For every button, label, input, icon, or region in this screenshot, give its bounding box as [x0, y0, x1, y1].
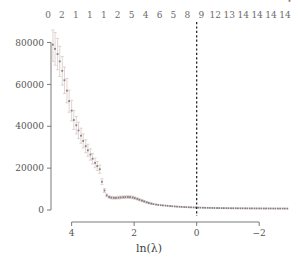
- data-point: [122, 196, 124, 198]
- top-axis-tick-label: 2: [115, 10, 121, 20]
- top-axis-tick-label: 14: [279, 10, 291, 20]
- data-point: [57, 53, 59, 55]
- data-point: [183, 206, 185, 208]
- data-point: [120, 197, 122, 199]
- top-axis-tick-label: 14: [265, 10, 277, 20]
- data-point: [78, 130, 80, 132]
- data-point: [197, 207, 199, 209]
- y-axis-tick-label: 80000: [15, 38, 44, 48]
- data-point: [104, 190, 106, 192]
- data-point: [85, 145, 87, 147]
- data-point: [289, 0, 291, 2]
- data-point: [124, 196, 126, 198]
- data-point: [71, 110, 73, 112]
- x-axis-tick-label: −2: [253, 228, 266, 238]
- data-point: [54, 48, 56, 50]
- data-point: [94, 162, 96, 164]
- x-axis-tick-label: 2: [131, 228, 137, 238]
- data-point: [204, 207, 206, 209]
- data-point: [99, 168, 101, 170]
- data-point: [235, 207, 237, 209]
- top-axis-tick-label: 12: [210, 10, 221, 20]
- data-point: [260, 208, 262, 210]
- data-point: [96, 165, 98, 167]
- data-point: [167, 205, 169, 207]
- data-point: [87, 149, 89, 151]
- data-point: [185, 206, 187, 208]
- data-point: [165, 205, 167, 207]
- data-point: [115, 197, 117, 199]
- data-point: [157, 204, 159, 206]
- data-point: [282, 208, 284, 210]
- y-axis-tick-label: 20000: [15, 163, 44, 173]
- data-point: [190, 206, 192, 208]
- top-axis-tick-label: 1: [101, 10, 107, 20]
- top-axis-tick-label: 5: [129, 10, 135, 20]
- data-point: [254, 208, 256, 210]
- data-point: [221, 207, 223, 209]
- data-point: [162, 204, 164, 206]
- data-point: [179, 206, 181, 208]
- data-point: [73, 119, 75, 121]
- data-point: [66, 90, 68, 92]
- data-point: [169, 205, 171, 207]
- x-axis-tick-label: 4: [69, 228, 75, 238]
- data-point: [61, 70, 63, 72]
- data-point: [171, 205, 173, 207]
- data-point: [202, 207, 204, 209]
- data-point: [249, 207, 251, 209]
- top-axis-tick-label: 6: [157, 10, 163, 20]
- data-point: [240, 207, 242, 209]
- data-point: [216, 207, 218, 209]
- data-point: [110, 197, 112, 199]
- data-point: [228, 207, 230, 209]
- top-axis-labels: 021112546589121314141414: [45, 10, 291, 20]
- error-bars: [51, 30, 153, 204]
- data-point: [207, 207, 209, 209]
- data-point: [265, 208, 267, 210]
- data-point: [75, 124, 77, 126]
- data-point: [139, 199, 141, 201]
- data-point: [150, 203, 152, 205]
- data-point: [246, 207, 248, 209]
- data-point: [244, 207, 246, 209]
- top-axis-tick-label: 1: [87, 10, 93, 20]
- data-point: [108, 196, 110, 198]
- data-point: [59, 60, 61, 62]
- chart-canvas: 021112546589121314141414 020000400006000…: [0, 0, 298, 274]
- x-axis-tick-label: 0: [194, 228, 200, 238]
- data-point: [188, 206, 190, 208]
- data-point: [68, 100, 70, 102]
- data-point: [237, 207, 239, 209]
- top-axis-tick-label: 2: [59, 10, 65, 20]
- data-point: [52, 44, 54, 46]
- data-point: [113, 197, 115, 199]
- y-axis-tick-label: 40000: [15, 121, 44, 131]
- top-axis-tick-label: 9: [198, 10, 204, 20]
- y-axis-tick-label: 60000: [15, 80, 44, 90]
- data-point: [132, 197, 134, 199]
- data-point: [101, 181, 103, 183]
- x-axis: 420−2: [69, 222, 266, 238]
- data-points: [52, 0, 290, 209]
- data-point: [146, 201, 148, 203]
- data-point: [89, 154, 91, 156]
- data-point: [134, 197, 136, 199]
- data-point: [92, 158, 94, 160]
- data-point: [148, 202, 150, 204]
- data-point: [82, 140, 84, 142]
- top-axis-tick-label: 4: [143, 10, 149, 20]
- data-point: [181, 206, 183, 208]
- data-point: [263, 208, 265, 210]
- data-point: [214, 207, 216, 209]
- data-point: [284, 208, 286, 210]
- data-point: [64, 79, 66, 81]
- data-point: [225, 207, 227, 209]
- data-point: [268, 208, 270, 210]
- top-axis-tick-label: 5: [171, 10, 177, 20]
- top-axis-tick-label: 8: [185, 10, 191, 20]
- data-point: [211, 207, 213, 209]
- data-point: [270, 208, 272, 210]
- data-point: [155, 204, 157, 206]
- data-point: [127, 196, 129, 198]
